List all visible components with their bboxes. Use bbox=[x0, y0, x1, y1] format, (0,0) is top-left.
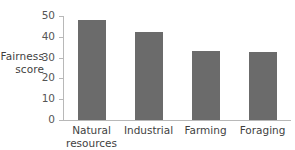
x-axis-category-label-line: Farming bbox=[177, 124, 234, 137]
y-axis-tick-mark bbox=[59, 99, 63, 100]
x-axis-category-label-line: Industrial bbox=[120, 124, 177, 137]
plot-area: 01020304050 NaturalresourcesIndustrialFa… bbox=[63, 16, 291, 120]
x-axis-category-label-line: resources bbox=[63, 137, 120, 150]
y-axis-tick-mark bbox=[59, 37, 63, 38]
y-axis-tick-mark bbox=[59, 58, 63, 59]
x-axis-category-label: Farming bbox=[177, 124, 234, 137]
bar bbox=[78, 20, 106, 120]
x-axis-category-label-line: Foraging bbox=[234, 124, 291, 137]
bar bbox=[192, 51, 220, 120]
y-axis-tick-label: 10 bbox=[42, 92, 55, 105]
y-axis-tick-label: 30 bbox=[42, 51, 55, 64]
y-axis-tick-mark bbox=[59, 78, 63, 79]
y-axis-label-line-2: score bbox=[0, 63, 44, 76]
x-axis-category-label: Foraging bbox=[234, 124, 291, 137]
y-axis-label-line-1: Fairness bbox=[0, 50, 44, 63]
y-axis-tick-mark bbox=[59, 120, 63, 121]
bar-chart-figure: Fairness score 01020304050 Naturalresour… bbox=[0, 0, 295, 150]
y-axis-label: Fairness score bbox=[0, 50, 44, 76]
x-axis-category-label: Industrial bbox=[120, 124, 177, 137]
x-axis-line bbox=[63, 120, 291, 121]
y-axis-tick-label: 50 bbox=[42, 9, 55, 22]
y-axis-tick-label: 20 bbox=[42, 71, 55, 84]
y-axis-tick-mark bbox=[59, 16, 63, 17]
bar bbox=[135, 32, 163, 120]
y-axis-line bbox=[63, 16, 64, 120]
bar bbox=[249, 52, 277, 120]
y-axis-tick-label: 40 bbox=[42, 30, 55, 43]
x-axis-category-label: Naturalresources bbox=[63, 124, 120, 149]
x-axis-category-label-line: Natural bbox=[63, 124, 120, 137]
y-axis-tick-label: 0 bbox=[48, 113, 55, 126]
